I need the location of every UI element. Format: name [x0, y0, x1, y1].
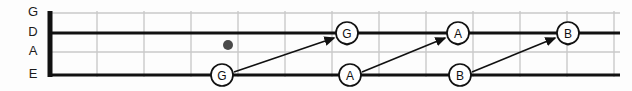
- string-label-E: E: [29, 66, 38, 81]
- arrow-g: [234, 38, 334, 72]
- strings: [50, 13, 620, 75]
- note-e-a[interactable]: A: [339, 64, 361, 86]
- note-e-g[interactable]: G: [211, 64, 233, 86]
- fretboard-diagram: GGAABBGDAE: [0, 0, 632, 91]
- note-d-g[interactable]: G: [336, 22, 358, 46]
- string-label-D: D: [28, 24, 37, 39]
- arrows: [234, 38, 555, 72]
- fret-dot-1: [223, 40, 233, 50]
- note-d-b[interactable]: B: [557, 22, 579, 46]
- note-label-d-b: B: [564, 27, 572, 41]
- fret-dots: [223, 40, 233, 50]
- fretboard-canvas: GGAABBGDAE: [0, 0, 632, 91]
- arrow-a: [362, 38, 445, 72]
- note-e-b[interactable]: B: [449, 64, 471, 86]
- string-label-A: A: [29, 43, 38, 58]
- nut: [48, 11, 53, 77]
- string-labels: GDAE: [28, 4, 38, 81]
- note-d-a[interactable]: A: [447, 22, 469, 46]
- note-label-d-g: G: [342, 27, 351, 41]
- note-label-e-g: G: [217, 69, 226, 83]
- string-label-G: G: [28, 4, 38, 19]
- arrow-b: [472, 38, 555, 72]
- note-label-e-b: B: [456, 69, 464, 83]
- note-label-e-a: A: [346, 69, 354, 83]
- note-label-d-a: A: [454, 27, 462, 41]
